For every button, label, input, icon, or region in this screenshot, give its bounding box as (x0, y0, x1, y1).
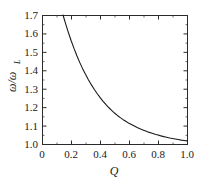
x-tick-label: 1.0 (180, 148, 194, 160)
y-tick-label: 1.0 (24, 138, 38, 150)
chart-svg: 1.01.11.21.31.41.51.61.7 00.20.40.60.81.… (0, 0, 204, 183)
x-tick-label: 0.4 (93, 148, 107, 160)
x-tick-label: 0.6 (122, 148, 136, 160)
x-tick-label: 0.8 (151, 148, 165, 160)
x-tick-label: 0.2 (64, 148, 78, 160)
y-axis-title-subscript: L (13, 59, 22, 65)
chart-figure: 1.01.11.21.31.41.51.61.7 00.20.40.60.81.… (0, 0, 204, 183)
y-axis-title-text: ω/ω (5, 72, 19, 92)
y-tick-label: 1.6 (24, 27, 38, 39)
x-axis-title: Q (110, 164, 119, 178)
x-tick-label: 0 (39, 148, 45, 160)
y-tick-label: 1.3 (24, 83, 38, 95)
y-tick-label: 1.4 (24, 64, 38, 76)
y-tick-label: 1.2 (24, 101, 38, 113)
y-tick-label: 1.1 (24, 120, 38, 132)
y-tick-label: 1.5 (24, 46, 38, 58)
y-tick-label: 1.7 (24, 9, 38, 21)
